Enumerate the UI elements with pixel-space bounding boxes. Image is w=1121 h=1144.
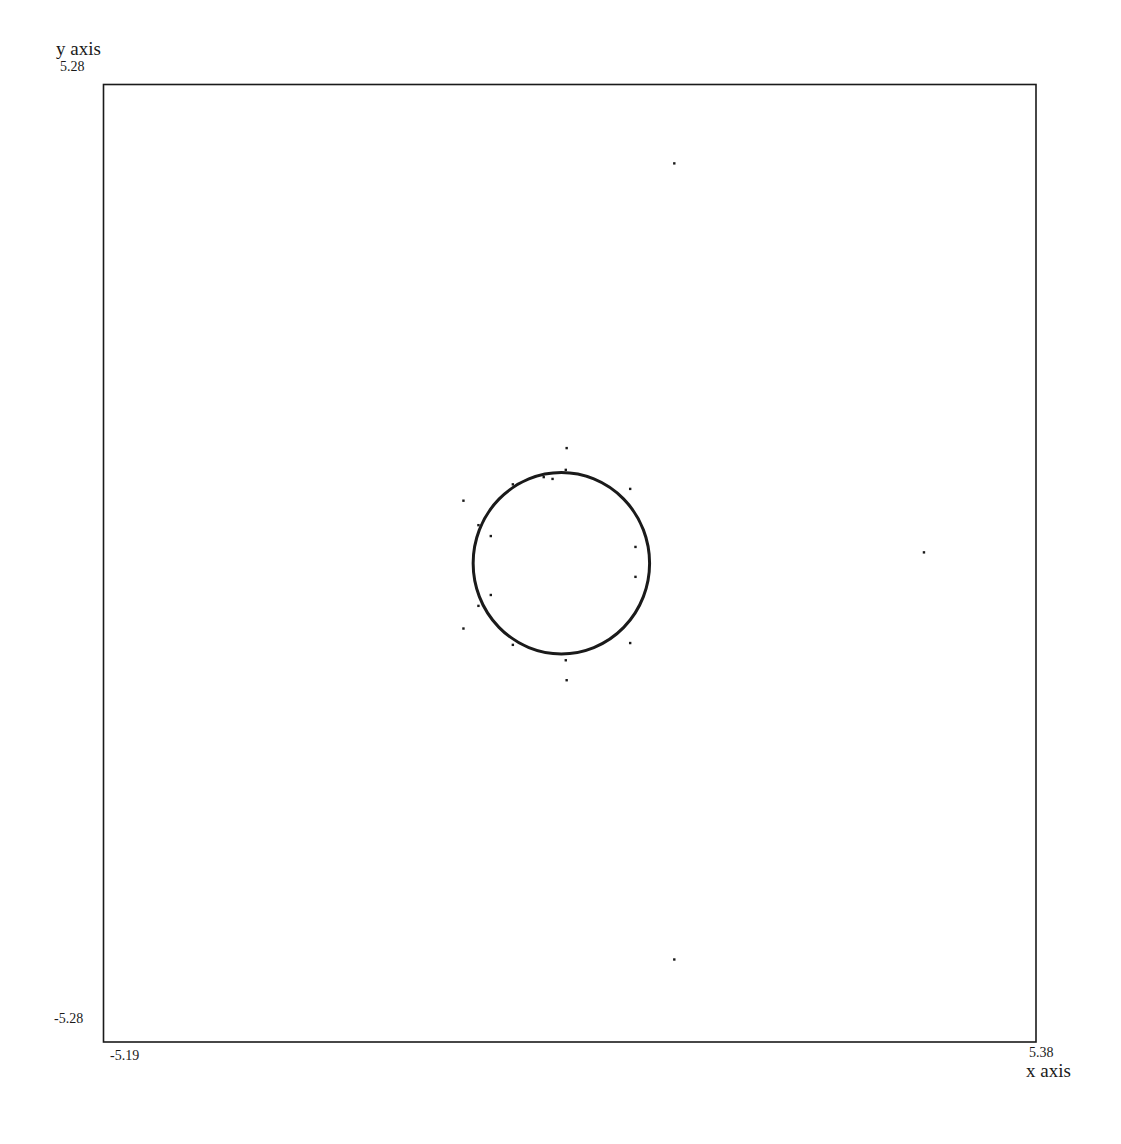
plot-frame: [104, 85, 1037, 1043]
data-point: [673, 958, 675, 960]
data-point: [565, 679, 567, 681]
data-point: [629, 642, 631, 644]
data-point: [543, 476, 545, 478]
data-point: [490, 594, 492, 596]
data-point: [565, 469, 567, 471]
data-point: [551, 478, 553, 480]
data-point: [629, 488, 631, 490]
data-point: [673, 162, 675, 164]
plot-area: [0, 0, 1121, 1144]
series-layer: [462, 162, 925, 961]
data-point: [512, 644, 514, 646]
data-point: [462, 627, 464, 629]
data-point: [490, 535, 492, 537]
data-point: [512, 483, 514, 485]
data-point: [477, 524, 479, 526]
data-point: [565, 447, 567, 449]
data-point: [634, 576, 636, 578]
data-point: [634, 546, 636, 548]
fitted-circle: [473, 473, 649, 654]
data-point: [462, 499, 464, 501]
data-point: [565, 659, 567, 661]
data-point: [923, 551, 925, 553]
data-point: [477, 605, 479, 607]
